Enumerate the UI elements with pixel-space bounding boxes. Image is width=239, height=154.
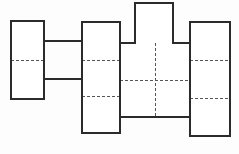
polyomino-net-diagram (0, 0, 239, 154)
fill-right-block (190, 22, 230, 136)
figure-caption (0, 140, 239, 154)
figure-container (0, 0, 239, 154)
fill-second-block (82, 22, 120, 133)
fill-top-square (135, 3, 173, 43)
